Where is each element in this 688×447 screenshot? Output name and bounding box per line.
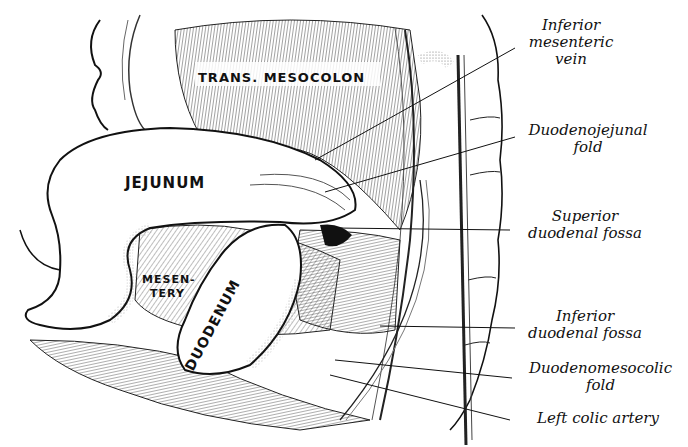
callout-text: Inferior xyxy=(520,308,650,325)
callout-text: fold xyxy=(518,377,683,394)
callout-text: fold xyxy=(518,139,658,156)
callout-text: vein xyxy=(516,51,626,68)
label-jejunum: JEJUNUM xyxy=(124,174,205,192)
leader-inferior-duodenal-fossa xyxy=(380,326,515,328)
label-trans-mesocolon: TRANS. MESOCOLON xyxy=(198,70,365,85)
callout-inferior-mesenteric-vein: Inferior mesenteric vein xyxy=(516,17,626,68)
callout-text: Left colic artery xyxy=(518,410,678,427)
label-mesentery-line1: MESEN- xyxy=(142,273,196,286)
callout-duodenomesocolic-fold: Duodenomesocolic fold xyxy=(518,360,683,394)
callout-superior-duodenal-fossa: Superior duodenal fossa xyxy=(520,208,650,242)
callout-left-colic-artery: Left colic artery xyxy=(518,410,678,427)
callout-text: duodenal fossa xyxy=(520,225,650,242)
leader-duodenomesocolic-fold xyxy=(335,360,512,378)
posterior-wall-region xyxy=(295,224,400,333)
callout-text: Superior xyxy=(520,208,650,225)
callout-text: mesenteric xyxy=(516,34,626,51)
left-colon-outline xyxy=(91,15,145,130)
callout-text: duodenal fossa xyxy=(520,325,650,342)
label-mesentery-line2: TERY xyxy=(150,287,185,300)
callout-text: Duodenomesocolic xyxy=(518,360,683,377)
callout-duodenojejunal-fold: Duodenojejunal fold xyxy=(518,122,658,156)
callout-text: Inferior xyxy=(516,17,626,34)
callout-text: Duodenojejunal xyxy=(518,122,658,139)
callout-inferior-duodenal-fossa: Inferior duodenal fossa xyxy=(520,308,650,342)
anatomy-figure: TRANS. MESOCOLON JEJUNUM MESEN- TERY DUO… xyxy=(0,0,688,447)
